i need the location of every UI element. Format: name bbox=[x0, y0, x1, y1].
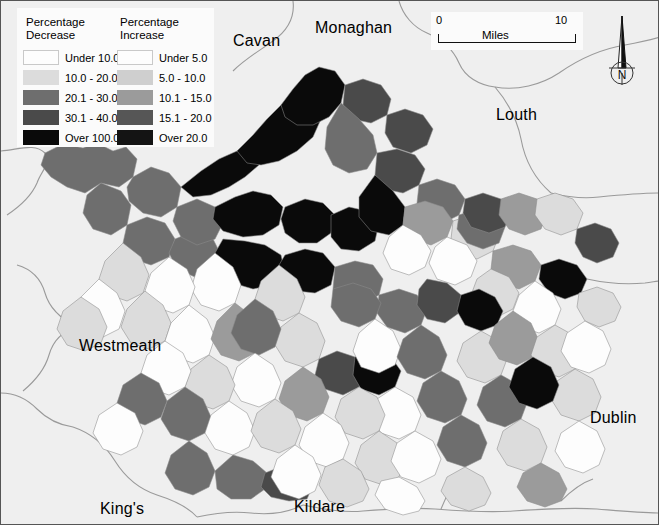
legend-label-decrease-2: 20.1 - 30.0 bbox=[65, 92, 118, 104]
legend-swatch-increase-3 bbox=[117, 110, 153, 125]
legend-decrease-title: Percentage Decrease bbox=[26, 16, 119, 41]
north-arrow-label: N bbox=[618, 68, 627, 82]
legend-item-increase-1: 5.0 - 10.0 bbox=[117, 68, 213, 87]
scale-bar-rule bbox=[438, 34, 576, 43]
legend-label-increase-3: 15.1 - 20.0 bbox=[159, 112, 212, 124]
legend-item-decrease-1: 10.0 - 20.0 bbox=[23, 68, 119, 87]
legend-label-decrease-1: 10.0 - 20.0 bbox=[65, 72, 118, 84]
legend-item-decrease-4: Over 100.0 bbox=[23, 128, 119, 147]
legend-label-increase-2: 10.1 - 15.0 bbox=[159, 92, 212, 104]
legend-column-decrease: Percentage Decrease Under 10.0 10.0 - 20… bbox=[23, 16, 119, 148]
place-label-louth: Louth bbox=[496, 106, 537, 124]
legend-decrease-title-line2: Decrease bbox=[26, 29, 75, 41]
legend-swatch-decrease-2 bbox=[23, 90, 59, 105]
legend-item-increase-4: Over 20.0 bbox=[117, 128, 213, 147]
place-label-kildare: Kildare bbox=[294, 498, 345, 516]
legend-swatch-increase-0 bbox=[117, 50, 153, 65]
legend-swatch-decrease-0 bbox=[23, 50, 59, 65]
place-label-dublin: Dublin bbox=[590, 409, 637, 427]
legend-increase-title-line1: Percentage bbox=[120, 16, 179, 28]
north-arrow: N bbox=[598, 13, 646, 88]
legend-swatch-decrease-1 bbox=[23, 70, 59, 85]
scale-bar: 0 10 Miles bbox=[431, 12, 583, 50]
north-arrow-left-half bbox=[618, 16, 622, 68]
legend-swatch-increase-2 bbox=[117, 90, 153, 105]
legend-item-decrease-0: Under 10.0 bbox=[23, 48, 119, 67]
legend-label-increase-1: 5.0 - 10.0 bbox=[159, 72, 205, 84]
legend-swatch-decrease-4 bbox=[23, 130, 59, 145]
legend-label-increase-4: Over 20.0 bbox=[159, 132, 207, 144]
legend-label-increase-0: Under 5.0 bbox=[159, 52, 207, 64]
legend-item-increase-0: Under 5.0 bbox=[117, 48, 213, 67]
map-legend: Percentage Decrease Under 10.0 10.0 - 20… bbox=[17, 8, 214, 147]
place-label-westmeath: Westmeath bbox=[79, 337, 161, 355]
place-label-monaghan: Monaghan bbox=[315, 19, 392, 37]
legend-item-increase-2: 10.1 - 15.0 bbox=[117, 88, 213, 107]
place-label-kings: King's bbox=[100, 500, 144, 518]
legend-item-increase-3: 15.1 - 20.0 bbox=[117, 108, 213, 127]
legend-column-increase: Percentage Increase Under 5.0 5.0 - 10.0… bbox=[117, 16, 213, 148]
legend-item-decrease-2: 20.1 - 30.0 bbox=[23, 88, 119, 107]
north-arrow-right-half bbox=[622, 16, 626, 68]
legend-label-decrease-3: 30.1 - 40.0 bbox=[65, 112, 118, 124]
scale-bar-max-label: 10 bbox=[555, 14, 567, 26]
legend-label-decrease-4: Over 100.0 bbox=[65, 132, 119, 144]
north-arrow-graphic: N bbox=[598, 13, 646, 88]
legend-item-decrease-3: 30.1 - 40.0 bbox=[23, 108, 119, 127]
map-figure: Cavan Monaghan Louth Westmeath Dublin Ki… bbox=[0, 0, 659, 525]
legend-decrease-title-line1: Percentage bbox=[26, 16, 85, 28]
legend-increase-title: Percentage Increase bbox=[120, 16, 213, 41]
scale-bar-min-label: 0 bbox=[436, 14, 442, 26]
legend-swatch-increase-4 bbox=[117, 130, 153, 145]
place-label-cavan: Cavan bbox=[233, 32, 280, 50]
legend-swatch-decrease-3 bbox=[23, 110, 59, 125]
legend-swatch-increase-1 bbox=[117, 70, 153, 85]
legend-label-decrease-0: Under 10.0 bbox=[65, 52, 119, 64]
legend-increase-title-line2: Increase bbox=[120, 29, 164, 41]
